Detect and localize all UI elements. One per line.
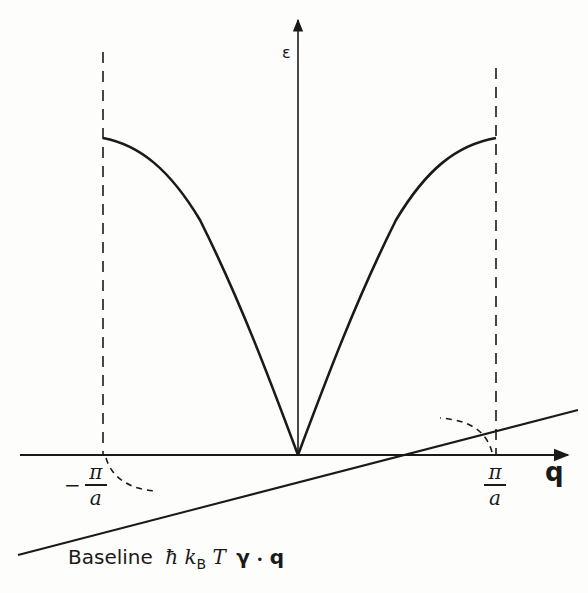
minus-sign: − (64, 473, 81, 497)
denominator: a (489, 488, 501, 508)
denominator: a (90, 488, 102, 508)
temperature-symbol: T (213, 545, 226, 569)
q-symbol: q (270, 545, 284, 569)
left-projection-arc (106, 458, 158, 491)
numerator: π (89, 462, 102, 482)
fraction: π a (484, 462, 506, 508)
dispersion-curve-right (298, 138, 496, 455)
epsilon-axis-label: ε (282, 43, 291, 62)
numerator: π (488, 462, 501, 482)
baseline-label: Baseline ħ kB T γ • q (68, 545, 284, 572)
baseline-prefix: Baseline (68, 545, 153, 569)
k-subscript: B (197, 556, 207, 572)
left-boundary-label: − π a (64, 462, 107, 508)
gamma-symbol: γ (236, 545, 250, 569)
fraction: π a (85, 462, 107, 508)
dot-symbol: • (256, 553, 263, 567)
hbar-symbol: ħ (165, 545, 178, 569)
right-boundary-label: π a (484, 462, 506, 508)
dispersion-curve-left (103, 138, 298, 455)
k-symbol: k (184, 545, 196, 569)
q-axis-label: q (545, 457, 564, 487)
